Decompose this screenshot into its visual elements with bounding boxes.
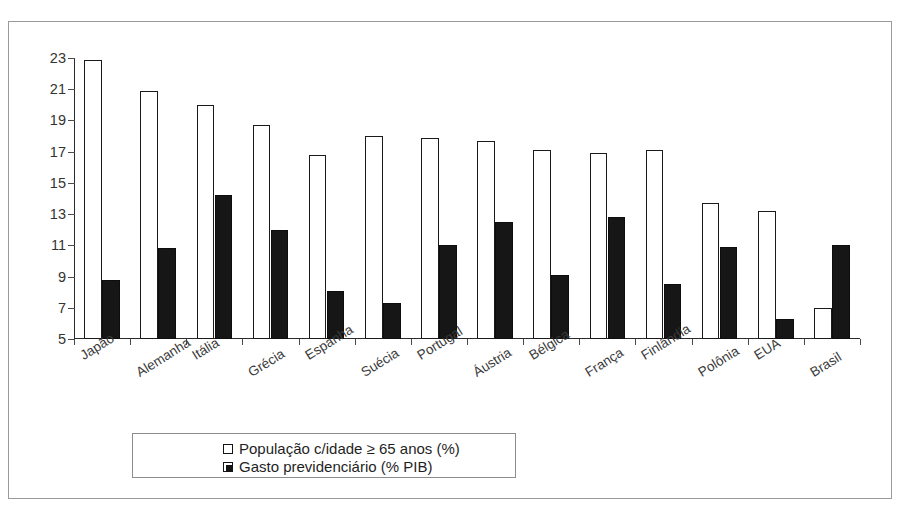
y-axis-tick-labels: 23211917151311975 [26,0,66,513]
bar-populacao [309,155,327,339]
x-tick-mark [130,339,131,345]
legend-item-gasto: Gasto previdenciário (% PIB) [223,459,432,474]
bar-populacao [84,60,102,339]
bar-populacao [533,150,551,339]
x-tick-mark [635,339,636,345]
legend-label-gasto: Gasto previdenciário (% PIB) [239,459,432,474]
category-label: EUA [752,336,783,362]
y-tick-label: 23 [32,51,66,66]
bar-gasto [215,195,233,339]
x-tick-mark [748,339,749,345]
bar-group [804,58,860,339]
bar-group [74,58,130,339]
white-square-icon [223,444,233,454]
bar-populacao [253,125,271,339]
bar-populacao [421,138,439,339]
x-tick-mark [242,339,243,345]
bar-group [467,58,523,339]
bar-group [130,58,186,339]
bar-group [355,58,411,339]
y-tick-label: 11 [32,238,66,253]
y-tick-label: 7 [32,301,66,316]
x-tick-mark [355,339,356,345]
category-label: Grécia [246,347,287,380]
bar-populacao [758,211,776,339]
x-tick-mark [74,339,75,345]
x-tick-mark [467,339,468,345]
bar-populacao [702,203,720,339]
y-tick-label: 19 [32,113,66,128]
category-label: França [583,346,626,380]
category-label: Suécia [359,346,401,379]
bar-group [692,58,748,339]
bar-chart: 23211917151311975 JapãoAlemanhaItáliaGré… [0,0,901,513]
bar-gasto [720,247,738,339]
bar-populacao [814,308,832,339]
plot-area [74,58,860,339]
bar-gasto [495,222,513,339]
category-label: Brasil [808,350,844,379]
y-tick-label: 15 [32,176,66,191]
chart-legend: População c/idade ≥ 65 anos (%) Gasto pr… [132,433,516,478]
x-tick-mark [411,339,412,345]
black-square-icon [223,462,233,472]
bar-gasto [102,280,120,339]
category-label: Polônia [696,344,741,379]
bar-group [579,58,635,339]
x-tick-mark [523,339,524,345]
bar-populacao [140,91,158,339]
bar-group [748,58,804,339]
bar-group [411,58,467,339]
y-tick-label: 5 [32,332,66,347]
bar-group [523,58,579,339]
bar-gasto [832,245,850,339]
bar-populacao [646,150,664,339]
bar-group [635,58,691,339]
legend-item-populacao: População c/idade ≥ 65 anos (%) [223,441,460,456]
bar-gasto [271,230,289,339]
bar-populacao [365,136,383,339]
x-tick-mark [299,339,300,345]
x-tick-mark [804,339,805,345]
x-tick-mark [579,339,580,345]
bar-gasto [158,248,176,339]
bar-gasto [608,217,626,339]
bar-gasto [383,303,401,339]
bar-populacao [590,153,608,339]
x-tick-mark [860,339,861,345]
y-tick-label: 9 [32,270,66,285]
bar-group [299,58,355,339]
bar-gasto [776,319,794,339]
x-tick-mark [692,339,693,345]
category-label: Áustria [471,346,514,380]
category-label: Alemanha [134,336,193,380]
bar-populacao [477,141,495,339]
category-label: Itália [190,336,221,363]
bar-populacao [197,105,215,339]
legend-label-populacao: População c/idade ≥ 65 anos (%) [239,441,460,456]
bar-group [186,58,242,339]
bar-group [242,58,298,339]
y-tick-label: 21 [32,82,66,97]
y-tick-label: 13 [32,207,66,222]
y-tick-label: 17 [32,145,66,160]
